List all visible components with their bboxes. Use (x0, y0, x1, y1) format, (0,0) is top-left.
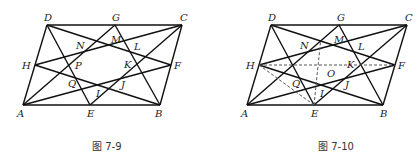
point-label-K: K (123, 59, 132, 70)
point-label-J: J (343, 79, 350, 90)
point-label-P: P (74, 60, 82, 71)
point-label-H: H (245, 60, 255, 71)
point-label-H: H (21, 60, 31, 71)
figure-2: DGCHFAEBNMLOKQIJ图 7-10 (240, 12, 413, 152)
point-label-D: D (267, 12, 276, 23)
point-label-L: L (133, 41, 141, 52)
figure-1: DGCHFAEBNMLPKQIJ图 7-9 (16, 12, 188, 152)
point-label-M: M (110, 34, 122, 45)
point-label-C: C (180, 12, 188, 23)
figure-caption: 图 7-10 (318, 141, 354, 152)
figure-caption: 图 7-9 (92, 141, 122, 152)
point-label-A: A (16, 108, 24, 119)
point-label-E: E (86, 108, 95, 119)
point-label-F: F (397, 60, 406, 71)
point-label-N: N (299, 40, 310, 51)
point-label-J: J (119, 79, 126, 90)
point-label-M: M (333, 34, 345, 45)
point-label-F: F (173, 60, 182, 71)
point-label-B: B (379, 108, 387, 119)
point-label-K: K (346, 59, 355, 70)
point-label-N: N (75, 40, 86, 51)
point-label-Q: Q (292, 78, 300, 89)
point-label-G: G (112, 12, 120, 23)
point-label-B: B (154, 108, 162, 119)
point-label-C: C (405, 12, 413, 23)
point-label-Q: Q (68, 78, 76, 89)
point-label-G: G (337, 12, 345, 23)
geometry-figures: DGCHFAEBNMLPKQIJ图 7-9DGCHFAEBNMLOKQIJ图 7… (0, 0, 418, 159)
point-label-O: O (327, 68, 335, 79)
point-label-I: I (319, 88, 325, 99)
point-label-L: L (357, 41, 365, 52)
point-label-D: D (43, 12, 52, 23)
point-label-I: I (95, 88, 101, 99)
point-label-E: E (310, 108, 319, 119)
point-label-A: A (240, 108, 248, 119)
